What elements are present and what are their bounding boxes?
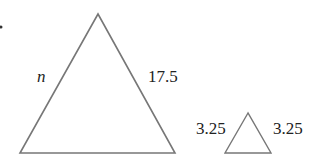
small-left-side-label: 3.25 xyxy=(196,120,226,137)
similar-triangles-diagram: n 17.5 3.25 3.25 xyxy=(0,0,326,162)
large-right-side-label: 17.5 xyxy=(148,68,178,85)
large-left-side-label: n xyxy=(37,68,46,85)
small-triangle xyxy=(225,113,271,153)
bullet-dot xyxy=(0,26,3,29)
small-right-side-label: 3.25 xyxy=(273,120,303,137)
